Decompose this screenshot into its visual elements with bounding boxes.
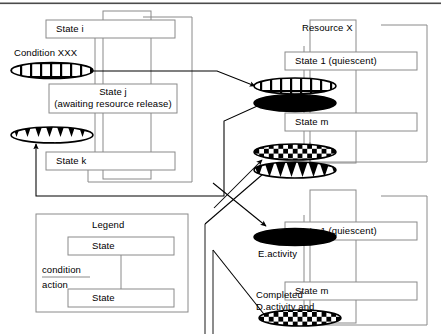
- page-top-rule: [0, 3, 441, 5]
- transition-ellipse-checker-top: [254, 144, 336, 160]
- label-res-top-state1: State 1 (quiescent): [295, 55, 377, 66]
- transition-ellipse-triangle-left: [11, 127, 93, 143]
- label-completed-line2: D.activity and: [256, 301, 314, 312]
- legend-condition: condition: [42, 264, 81, 275]
- resource-bottom-group: [304, 190, 427, 325]
- legend-state-bottom: State: [92, 292, 115, 303]
- transition-ellipse-triangle-right: [254, 162, 336, 178]
- label-completed-line1: Completed: [256, 289, 303, 300]
- label-e-activity: E.activity: [258, 248, 297, 259]
- transition-ellipse-solid-top: [254, 95, 336, 112]
- label-state-j-note: (awaiting resource release): [54, 98, 171, 109]
- transition-ellipse-brick-left: [11, 63, 93, 79]
- legend-title: Legend: [92, 219, 124, 230]
- arrow-to-solid-bottom: [213, 183, 266, 226]
- legend-state-top: State: [92, 240, 115, 251]
- transition-ellipse-brick-right: [254, 78, 336, 94]
- transition-ellipse-checker-bottom: [259, 310, 341, 326]
- legend-action: action: [42, 279, 68, 290]
- label-res-bot-state1: State 1 (quiescent): [295, 225, 377, 236]
- label-state-k: State k: [56, 155, 86, 166]
- arrow-to-checker-top: [214, 160, 262, 208]
- label-state-j: State j: [99, 86, 127, 97]
- label-condition-xxx: Condition XXX: [14, 47, 77, 58]
- label-state-i: State i: [56, 23, 84, 34]
- label-resource-x-title: Resource X: [302, 22, 353, 33]
- diagram-canvas: State i Condition XXX State j (awaiting …: [0, 0, 441, 334]
- label-res-top-statem: State m: [295, 116, 328, 127]
